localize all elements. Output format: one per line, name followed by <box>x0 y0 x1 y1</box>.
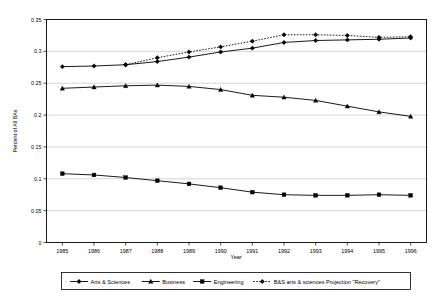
series-2 <box>60 172 412 197</box>
data-point-marker <box>345 33 349 37</box>
data-point-marker <box>123 63 127 67</box>
y-axis-tick-label: 0.35 <box>31 17 42 23</box>
y-axis-tick-label: 0.05 <box>31 208 42 214</box>
series-line <box>62 85 410 116</box>
x-axis-tick-label: 1989 <box>183 248 195 254</box>
data-point-marker <box>282 40 286 44</box>
data-point-marker <box>92 64 96 68</box>
legend-marker-icon <box>200 280 204 284</box>
y-axis-tick-label: 0.15 <box>31 144 42 150</box>
data-point-marker <box>282 33 286 37</box>
series-0 <box>60 36 413 69</box>
data-point-marker <box>250 46 254 50</box>
x-axis-tick-label: 1992 <box>278 248 290 254</box>
series-line <box>62 38 410 67</box>
x-axis-tick-label: 1987 <box>120 248 132 254</box>
plot-frame <box>47 20 427 243</box>
y-axis-tick-label: 0 <box>39 240 42 246</box>
y-axis-tick-label: 0.25 <box>31 80 42 86</box>
x-axis-tick-label: 1994 <box>341 248 353 254</box>
data-point-marker <box>345 193 349 197</box>
data-point-marker <box>124 176 128 180</box>
data-point-marker <box>250 39 254 43</box>
x-axis-tick-label: 1988 <box>151 248 163 254</box>
data-point-marker <box>345 38 349 42</box>
data-point-marker <box>187 182 191 186</box>
x-axis-title: Year <box>231 254 242 260</box>
data-point-marker <box>409 193 413 197</box>
legend-item-0[interactable]: Arts & Sciences <box>70 279 130 285</box>
x-axis-tick-label: 1990 <box>215 248 227 254</box>
y-axis-title: Percent of All BAs <box>12 109 18 152</box>
data-point-marker <box>218 45 222 49</box>
y-axis-tick-label: 0.3 <box>34 48 42 54</box>
x-axis-tick-label: 1996 <box>405 248 417 254</box>
y-axis-tick-labels-group: 00.050.10.150.20.250.30.35 <box>31 17 42 246</box>
x-axis-tick-label: 1993 <box>310 248 322 254</box>
series-line <box>62 174 410 196</box>
data-point-marker <box>92 173 96 177</box>
x-axis-tick-label: 1995 <box>373 248 385 254</box>
data-point-marker <box>60 64 64 68</box>
legend-label: Business <box>162 279 185 285</box>
legend-label: B&S arts & sciences Projection "Recovery… <box>274 279 380 285</box>
data-point-marker <box>60 172 64 176</box>
x-axis-tick-label: 1991 <box>246 248 258 254</box>
y-axis-tick-label: 0.2 <box>34 112 42 118</box>
gridlines-group <box>47 20 427 211</box>
data-point-marker <box>282 193 286 197</box>
series-3 <box>123 33 412 67</box>
legend-label: Arts & Sciences <box>91 279 131 285</box>
x-axis-tick-label: 1986 <box>88 248 100 254</box>
line-chart: 00.050.10.150.20.250.30.35 1985198619871… <box>0 0 447 306</box>
data-point-marker <box>219 186 223 190</box>
x-axis-tick-label: 1985 <box>56 248 68 254</box>
y-axis-tick-label: 0.1 <box>34 176 42 182</box>
data-point-marker <box>313 33 317 37</box>
data-point-marker <box>313 38 317 42</box>
data-point-marker <box>314 193 318 197</box>
data-point-marker <box>155 56 159 60</box>
data-point-marker <box>377 193 381 197</box>
chart-container: 00.050.10.150.20.250.30.35 1985198619871… <box>0 0 447 306</box>
data-point-marker <box>155 179 159 183</box>
series-1 <box>60 83 413 118</box>
data-point-marker <box>250 190 254 194</box>
legend-label: Engineering <box>214 279 244 285</box>
legend-items-group: Arts & SciencesBusinessEngineeringB&S ar… <box>70 279 380 285</box>
x-axis-tick-labels-group: 1985198619871988198919901991199219931994… <box>56 248 416 254</box>
data-point-marker <box>187 50 191 54</box>
data-point-marker <box>187 55 191 59</box>
data-point-marker <box>218 50 222 54</box>
